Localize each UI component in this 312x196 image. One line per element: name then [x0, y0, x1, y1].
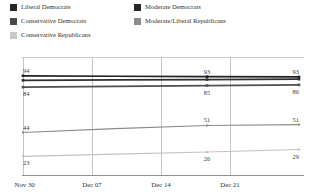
legend-swatch-conservative-democrats [10, 18, 17, 25]
x-axis-tick-label: Dec 07 [82, 180, 101, 189]
legend-item-label: Moderate/Liberal Republicans [145, 17, 226, 25]
data-label: 93 [204, 68, 210, 75]
series-line [23, 79, 299, 80]
legend-swatch-moderate-democrats [134, 4, 141, 11]
data-label: 94 [23, 67, 29, 74]
legend-item-label: Liberal Democrats [21, 3, 71, 11]
legend-swatch-moderate-liberal-republicans [134, 18, 141, 25]
x-axis-tick-label: Dec 14 [151, 180, 170, 189]
data-label: 26 [204, 155, 210, 162]
series-lines [22, 57, 304, 176]
plot-area: 949393848586445151232629 [22, 57, 304, 176]
series-marker [298, 149, 300, 151]
series-marker [206, 84, 209, 87]
x-axis-tick-label: Dec 21 [220, 180, 239, 189]
series-line [23, 150, 299, 157]
data-label: 44 [23, 124, 29, 131]
data-label: 93 [293, 68, 299, 75]
data-label: 86 [293, 88, 299, 95]
series-marker [298, 84, 301, 87]
series-marker [206, 78, 209, 81]
series-marker [298, 78, 301, 81]
series-marker [22, 155, 24, 157]
data-label: 29 [293, 153, 299, 160]
series-line [23, 85, 299, 87]
series-marker [206, 151, 208, 153]
data-label: 84 [23, 90, 29, 97]
x-axis-tick-labels: Nov 30Dec 07Dec 14Dec 21 [22, 180, 304, 194]
series-marker [298, 124, 300, 126]
legend-item-label: Conservative Democrats [21, 17, 86, 25]
x-axis-tick-label: Nov 30 [15, 180, 35, 189]
data-label: 51 [293, 116, 299, 123]
legend-item[interactable]: Moderate Democrats [134, 3, 201, 11]
line-chart: Liberal DemocratsModerate DemocratsConse… [0, 0, 312, 196]
series-marker [22, 75, 25, 78]
data-label: 23 [23, 159, 29, 166]
legend-item-label: Moderate Democrats [145, 3, 201, 11]
chart-legend: Liberal DemocratsModerate DemocratsConse… [4, 2, 304, 46]
series-marker [22, 132, 24, 134]
plot-bottom-axis [22, 175, 304, 176]
data-label: 51 [204, 116, 210, 123]
legend-item[interactable]: Conservative Republicans [10, 31, 91, 39]
legend-swatch-liberal-democrats [10, 4, 17, 11]
data-label: 85 [204, 89, 210, 96]
legend-swatch-conservative-republicans [10, 32, 17, 39]
series-marker [22, 86, 25, 89]
series-marker [298, 76, 301, 79]
series-line [23, 76, 299, 77]
legend-item[interactable]: Conservative Democrats [10, 17, 86, 25]
legend-item[interactable]: Liberal Democrats [10, 3, 71, 11]
series-marker [206, 124, 208, 126]
legend-item[interactable]: Moderate/Liberal Republicans [134, 17, 226, 25]
series-line [23, 125, 299, 133]
series-marker [22, 79, 25, 82]
series-marker [206, 75, 209, 78]
legend-item-label: Conservative Republicans [21, 31, 91, 39]
